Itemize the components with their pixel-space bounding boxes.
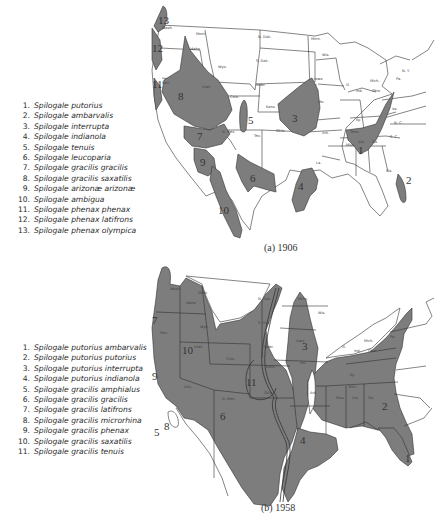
svg-text:Tenn.: Tenn. [347, 385, 358, 389]
svg-text:La.: La. [316, 161, 321, 165]
svg-text:S. Dak.: S. Dak. [258, 321, 271, 325]
svg-text:Colo.: Colo. [226, 357, 235, 361]
range-map-1906: 13 12 11 8 7 5 3 9 6 10 4 1 2 Wash. Mont… [150, 0, 437, 262]
svg-text:N. C.: N. C. [394, 121, 403, 125]
svg-text:Pa.: Pa. [396, 77, 401, 81]
legend-item: 13.Spilogale phenax olympica [4, 226, 136, 236]
legend-item: 3.Spilogale putorius interrupta [4, 364, 147, 374]
svg-text:Mo.: Mo. [318, 100, 324, 104]
legend-item: 3.Spilogale interrupta [4, 122, 136, 132]
legend-1958: 1.Spilogale putorius ambarvalis 2.Spilog… [4, 343, 147, 457]
svg-text:Iowa: Iowa [314, 77, 322, 81]
svg-text:Mont.: Mont. [196, 32, 206, 36]
legend-item: 4.Spilogale indianola [4, 132, 136, 142]
svg-text:2: 2 [406, 174, 412, 186]
svg-text:Okla.: Okla. [276, 129, 285, 133]
legend-item: 9.Spilogale arizonæ arizonæ [4, 184, 136, 194]
range-10 [210, 166, 242, 238]
svg-text:Ala.: Ala. [358, 140, 365, 144]
legend-item: 11.Spilogale phenax phenax [4, 205, 136, 215]
svg-text:1: 1 [405, 452, 411, 464]
svg-text:Ala.: Ala. [352, 396, 359, 400]
svg-text:Mont.: Mont. [198, 291, 208, 295]
svg-text:10: 10 [218, 204, 230, 216]
svg-text:S. C.: S. C. [390, 135, 398, 139]
legend-item: 6.Spilogale gracilis gracilis [4, 395, 147, 405]
svg-text:Wyo.: Wyo. [200, 325, 209, 329]
svg-text:N. Dak.: N. Dak. [258, 35, 271, 39]
svg-text:6: 6 [250, 172, 256, 184]
svg-text:Minn.: Minn. [311, 37, 321, 41]
gap-ca-coast [168, 411, 178, 427]
svg-text:Ariz.: Ariz. [184, 385, 192, 389]
svg-text:10: 10 [182, 344, 194, 356]
svg-text:N. Dak.: N. Dak. [258, 297, 271, 301]
svg-text:7: 7 [197, 130, 203, 142]
svg-text:Idaho: Idaho [190, 47, 200, 51]
svg-text:Mich.: Mich. [364, 339, 374, 343]
legend-item: 8.Spilogale gracilis saxatilis [4, 174, 136, 184]
svg-text:Wash.: Wash. [170, 287, 181, 291]
svg-text:8: 8 [178, 90, 184, 102]
legend-item: 5.Spilogale tenuis [4, 143, 136, 153]
svg-text:Utah: Utah [202, 85, 211, 89]
legend-item: 2.Spilogale ambarvalis [4, 111, 136, 121]
svg-text:5: 5 [248, 114, 254, 126]
svg-text:Mich.: Mich. [370, 79, 380, 83]
legend-item: 9.Spilogale gracilis phenax [4, 426, 147, 436]
svg-text:Ark.: Ark. [310, 391, 317, 395]
svg-text:4: 4 [300, 434, 306, 446]
svg-text:Nebr.: Nebr. [256, 83, 265, 87]
range-map-1958: 1 2 3 4 5 6 7 8 9 10 11 Wash. Mont. N. D… [150, 258, 437, 508]
legend-item: 5.Spilogale gracilis amphialus [4, 385, 147, 395]
legend-item: 4.Spilogale putorius indianola [4, 374, 147, 384]
legend-item: 11.Spilogale gracilis tenuis [4, 447, 147, 457]
svg-text:9: 9 [152, 370, 158, 382]
svg-text:Ga.: Ga. [372, 140, 378, 144]
svg-text:Wis.: Wis. [322, 53, 330, 57]
legend-item: 7.Spilogale gracilis latifrons [4, 405, 147, 415]
range-3 [278, 78, 320, 136]
svg-text:N. Y.: N. Y. [402, 69, 410, 73]
svg-text:Idaho: Idaho [186, 301, 196, 305]
svg-text:N. Mex.: N. Mex. [222, 397, 236, 401]
svg-text:Iowa: Iowa [296, 339, 304, 343]
svg-text:8: 8 [164, 420, 170, 432]
range-6 [236, 154, 276, 192]
svg-text:Kans.: Kans. [266, 365, 276, 369]
svg-text:Minn.: Minn. [298, 297, 308, 301]
svg-text:Wyo.: Wyo. [218, 65, 227, 69]
legend-item: 7.Spilogale gracilis gracilis [4, 163, 136, 173]
svg-text:4: 4 [298, 180, 304, 192]
svg-text:Ky.: Ky. [356, 118, 361, 122]
svg-text:Tex.: Tex. [253, 134, 261, 138]
svg-text:5: 5 [154, 426, 160, 438]
svg-text:Wis.: Wis. [318, 311, 326, 315]
svg-text:Ky.: Ky. [350, 373, 355, 377]
svg-text:Ind.: Ind. [354, 349, 361, 353]
svg-text:Kans.: Kans. [266, 105, 276, 109]
svg-text:Miss.: Miss. [336, 396, 345, 400]
svg-text:Nev.: Nev. [162, 81, 170, 85]
legend-item: 10.Spilogale gracilis saxatilis [4, 437, 147, 447]
svg-text:7: 7 [152, 314, 158, 326]
svg-text:N. Mex.: N. Mex. [222, 130, 236, 134]
svg-text:Wash.: Wash. [162, 26, 173, 30]
svg-text:3: 3 [292, 112, 298, 124]
range-5 [240, 100, 248, 132]
legend-item: 1.Spilogale putorius [4, 101, 136, 111]
svg-text:Nev.: Nev. [160, 331, 168, 335]
svg-text:11: 11 [152, 78, 163, 90]
svg-text:Ga.: Ga. [368, 396, 374, 400]
legend-item: 1.Spilogale putorius ambarvalis [4, 343, 147, 353]
svg-text:Miss.: Miss. [346, 143, 355, 147]
svg-text:Utah: Utah [194, 345, 203, 349]
svg-text:Fla.: Fla. [386, 169, 392, 173]
svg-text:Pa.: Pa. [390, 335, 395, 339]
svg-text:1: 1 [358, 144, 364, 156]
svg-text:Ohio: Ohio [372, 89, 380, 93]
svg-text:13: 13 [158, 14, 170, 26]
svg-text:S. Dak.: S. Dak. [256, 59, 269, 63]
range-2 [396, 174, 406, 203]
legend-item: 10.Spilogale ambigua [4, 195, 136, 205]
